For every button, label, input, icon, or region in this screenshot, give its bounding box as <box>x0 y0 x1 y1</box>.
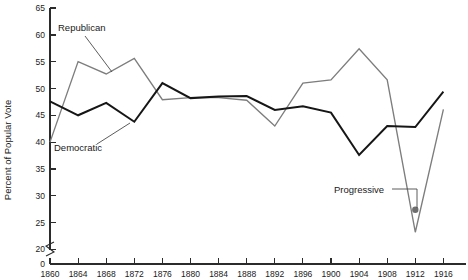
x-tick-label-1868: 1868 <box>97 269 116 279</box>
x-tick-label-1888: 1888 <box>237 269 256 279</box>
x-tick-label-1876: 1876 <box>153 269 172 279</box>
x-tick-label-1908: 1908 <box>378 269 397 279</box>
x-tick-1876: 1876 <box>153 258 172 279</box>
y-tick-65: 65 <box>36 3 56 13</box>
y-tick-25: 25 <box>36 218 56 228</box>
y-tick-label-65: 65 <box>36 3 46 13</box>
x-tick-label-1880: 1880 <box>181 269 200 279</box>
y-tick-45: 45 <box>36 110 56 120</box>
x-tick-1912: 1912 <box>406 258 425 279</box>
y-tick-label-20: 20 <box>36 244 46 254</box>
y-tick-label-0: 0 <box>40 259 45 269</box>
progressive-data-point <box>412 207 418 213</box>
x-tick-label-1916: 1916 <box>434 269 453 279</box>
x-tick-1916: 1916 <box>434 258 453 279</box>
series-line-republican <box>50 49 443 232</box>
x-tick-label-1896: 1896 <box>293 269 312 279</box>
y-axis-ticks: 65 60 55 50 45 40 <box>36 3 56 269</box>
x-tick-1904: 1904 <box>350 258 369 279</box>
x-tick-1864: 1864 <box>69 258 88 279</box>
y-tick-label-35: 35 <box>36 164 46 174</box>
annotation-label-progressive: Progressive <box>334 184 384 195</box>
x-tick-label-1900: 1900 <box>322 269 341 279</box>
y-tick-30: 30 <box>36 191 56 201</box>
x-tick-1872: 1872 <box>125 258 144 279</box>
annotation-label-republican: Republican <box>58 22 106 33</box>
x-tick-1896: 1896 <box>293 258 312 279</box>
x-tick-label-1912: 1912 <box>406 269 425 279</box>
x-tick-1888: 1888 <box>237 258 256 279</box>
y-tick-35: 35 <box>36 164 56 174</box>
chart-container: Percent of Popular Vote 65 60 55 50 <box>0 0 468 280</box>
y-tick-label-30: 30 <box>36 191 46 201</box>
series-line-democratic <box>50 83 443 155</box>
y-tick-40: 40 <box>36 137 56 147</box>
x-tick-1884: 1884 <box>209 258 228 279</box>
y-tick-label-45: 45 <box>36 110 46 120</box>
y-tick-label-50: 50 <box>36 84 46 94</box>
annotation-democratic: Democratic <box>54 123 130 153</box>
y-tick-label-40: 40 <box>36 137 46 147</box>
x-tick-1880: 1880 <box>181 258 200 279</box>
x-tick-label-1892: 1892 <box>265 269 284 279</box>
annotation-label-democratic: Democratic <box>54 142 102 153</box>
x-tick-label-1884: 1884 <box>209 269 228 279</box>
y-tick-55: 55 <box>36 57 56 67</box>
x-tick-label-1864: 1864 <box>69 269 88 279</box>
x-tick-label-1904: 1904 <box>350 269 369 279</box>
x-tick-1892: 1892 <box>265 258 284 279</box>
annotation-progressive: Progressive <box>334 184 417 208</box>
y-tick-50: 50 <box>36 84 56 94</box>
y-tick-60: 60 <box>36 30 56 40</box>
x-tick-1908: 1908 <box>378 258 397 279</box>
x-tick-label-1860: 1860 <box>41 269 60 279</box>
x-tick-1900: 1900 <box>322 258 341 279</box>
x-tick-label-1872: 1872 <box>125 269 144 279</box>
x-axis-ticks: 1860 1864 1868 1872 1876 1880 <box>41 258 454 279</box>
y-tick-label-60: 60 <box>36 30 46 40</box>
popular-vote-line-chart: Percent of Popular Vote 65 60 55 50 <box>0 0 468 280</box>
y-tick-label-25: 25 <box>36 218 46 228</box>
y-tick-0: 0 <box>40 259 45 269</box>
x-tick-1868: 1868 <box>97 258 116 279</box>
y-tick-label-55: 55 <box>36 57 46 67</box>
y-axis-title: Percent of Popular Vote <box>2 100 13 200</box>
